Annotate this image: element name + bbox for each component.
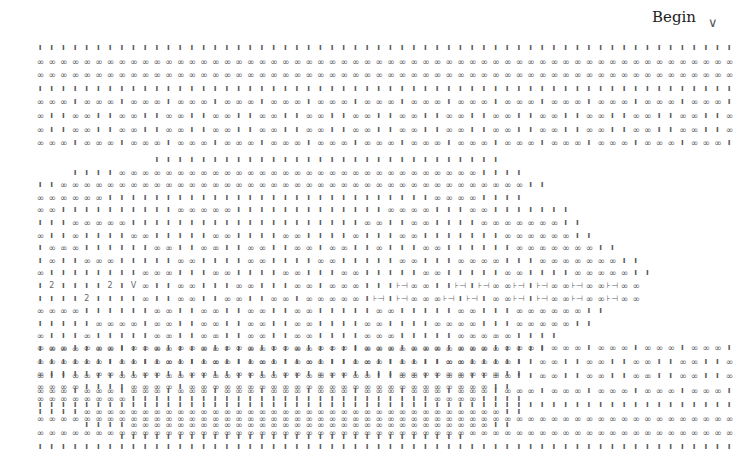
knit-stitch: ı xyxy=(525,370,537,382)
purl-stitch: ∞ xyxy=(501,413,513,425)
knit-stitch: ı xyxy=(256,42,268,54)
purl-stitch: ∞ xyxy=(560,280,572,292)
purl-stitch: ∞ xyxy=(233,280,245,292)
purl-stitch: ∞ xyxy=(571,342,583,354)
purl-stitch: ∞ xyxy=(314,413,326,425)
knit-stitch: ı xyxy=(536,267,548,279)
knit-stitch: ı xyxy=(513,356,525,368)
knit-stitch: ı xyxy=(723,96,735,108)
purl-stitch: ∞ xyxy=(618,293,630,305)
purl-stitch: ∞ xyxy=(338,293,350,305)
knit-stitch: ı xyxy=(69,342,81,354)
purl-stitch: ∞ xyxy=(279,96,291,108)
purl-stitch: ∞ xyxy=(233,167,245,179)
special-stitch: ⊦⊣ xyxy=(396,293,408,305)
knit-stitch: ı xyxy=(408,330,420,342)
purl-stitch: ∞ xyxy=(431,293,443,305)
knit-stitch: ı xyxy=(361,154,373,166)
purl-stitch: ∞ xyxy=(291,305,303,317)
knit-stitch: ı xyxy=(46,399,58,411)
knit-stitch: ı xyxy=(57,356,69,368)
purl-stitch: ∞ xyxy=(162,305,174,317)
knit-stitch: ı xyxy=(151,399,163,411)
knit-stitch: ı xyxy=(443,96,455,108)
purl-stitch: ∞ xyxy=(127,370,139,382)
knit-stitch: ı xyxy=(466,110,478,122)
knit-stitch: ı xyxy=(513,83,525,95)
purl-stitch: ∞ xyxy=(396,230,408,242)
purl-stitch: ∞ xyxy=(174,342,186,354)
purl-stitch: ∞ xyxy=(46,96,58,108)
knit-stitch: ı xyxy=(279,110,291,122)
purl-stitch: ∞ xyxy=(279,427,291,439)
knit-stitch: ı xyxy=(221,318,233,330)
knit-stitch: ı xyxy=(431,356,443,368)
knit-stitch: ı xyxy=(618,399,630,411)
knit-stitch: ı xyxy=(279,42,291,54)
knit-stitch: ı xyxy=(233,267,245,279)
knit-stitch: ı xyxy=(139,204,151,216)
knit-stitch: ı xyxy=(583,137,595,149)
knit-stitch: ı xyxy=(665,441,677,453)
purl-stitch: ∞ xyxy=(525,413,537,425)
purl-stitch: ∞ xyxy=(221,137,233,149)
knit-stitch: ı xyxy=(209,385,221,397)
purl-stitch: ∞ xyxy=(595,370,607,382)
knit-stitch: ı xyxy=(198,230,210,242)
purl-stitch: ∞ xyxy=(46,385,58,397)
purl-stitch: ∞ xyxy=(536,110,548,122)
purl-stitch: ∞ xyxy=(139,293,151,305)
purl-stitch: ∞ xyxy=(57,96,69,108)
purl-stitch: ∞ xyxy=(326,342,338,354)
purl-stitch: ∞ xyxy=(57,192,69,204)
purl-stitch: ∞ xyxy=(711,56,723,68)
knit-stitch: ı xyxy=(151,42,163,54)
purl-stitch: ∞ xyxy=(419,56,431,68)
purl-stitch: ∞ xyxy=(314,96,326,108)
knit-stitch: ı xyxy=(104,441,116,453)
purl-stitch: ∞ xyxy=(571,137,583,149)
purl-stitch: ∞ xyxy=(408,255,420,267)
knit-stitch: ı xyxy=(81,230,93,242)
purl-stitch: ∞ xyxy=(151,385,163,397)
knit-stitch: ı xyxy=(291,441,303,453)
purl-stitch: ∞ xyxy=(653,69,665,81)
purl-stitch: ∞ xyxy=(162,69,174,81)
knit-stitch: ı xyxy=(186,356,198,368)
knit-stitch: ı xyxy=(466,154,478,166)
purl-stitch: ∞ xyxy=(384,137,396,149)
purl-stitch: ∞ xyxy=(595,137,607,149)
purl-stitch: ∞ xyxy=(454,370,466,382)
purl-stitch: ∞ xyxy=(104,137,116,149)
knit-stitch: ı xyxy=(513,370,525,382)
purl-stitch: ∞ xyxy=(583,124,595,136)
purl-stitch: ∞ xyxy=(583,280,595,292)
purl-stitch: ∞ xyxy=(688,427,700,439)
knit-stitch: ı xyxy=(361,255,373,267)
purl-stitch: ∞ xyxy=(209,69,221,81)
knit-stitch: ı xyxy=(606,356,618,368)
knit-stitch: ı xyxy=(314,305,326,317)
purl-stitch: ∞ xyxy=(104,56,116,68)
knit-stitch: ı xyxy=(373,356,385,368)
purl-stitch: ∞ xyxy=(618,56,630,68)
knit-stitch: ı xyxy=(548,330,560,342)
purl-stitch: ∞ xyxy=(174,179,186,191)
knit-stitch: ı xyxy=(431,83,443,95)
purl-stitch: ∞ xyxy=(174,280,186,292)
knit-stitch: ı xyxy=(361,192,373,204)
purl-stitch: ∞ xyxy=(443,192,455,204)
purl-stitch: ∞ xyxy=(490,179,502,191)
knit-stitch: ı xyxy=(665,42,677,54)
knit-stitch: ı xyxy=(384,293,396,305)
purl-stitch: ∞ xyxy=(419,342,431,354)
knit-stitch: ı xyxy=(139,356,151,368)
knit-stitch: ı xyxy=(233,441,245,453)
knit-stitch: ı xyxy=(174,42,186,54)
knit-stitch: ı xyxy=(326,318,338,330)
knit-stitch: ı xyxy=(57,83,69,95)
knit-stitch: ı xyxy=(116,267,128,279)
purl-stitch: ∞ xyxy=(641,124,653,136)
knit-stitch: ı xyxy=(326,330,338,342)
knit-stitch: ı xyxy=(630,267,642,279)
